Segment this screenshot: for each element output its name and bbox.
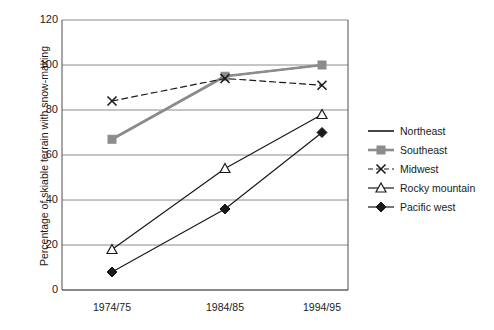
data-point-triangle (107, 245, 117, 254)
legend-item-midwest[interactable]: Midwest (366, 159, 494, 178)
x-axis-tick-label: 1984/85 (185, 301, 265, 313)
y-axis-tick-label: 40 (24, 194, 58, 205)
legend-item-label: Pacific west (396, 201, 455, 213)
y-axis-tick-labels: 020406080100120 (20, 0, 58, 330)
x-axis-tick-label: 1974/75 (72, 301, 152, 313)
legend-item-pacific-west[interactable]: Pacific west (366, 197, 494, 216)
legend-marker-icon (366, 180, 396, 196)
data-point-square (377, 146, 385, 154)
legend-item-label: Rocky mountain (396, 182, 475, 194)
y-axis-tick-label: 20 (24, 239, 58, 250)
data-point-square (318, 61, 326, 69)
y-axis-tick-label: 0 (24, 284, 58, 295)
legend-item-southeast[interactable]: Southeast (366, 140, 494, 159)
series-line (112, 65, 322, 139)
data-point-x (318, 81, 327, 90)
series-line (112, 115, 322, 250)
data-point-diamond (107, 267, 117, 277)
data-point-triangle (317, 110, 327, 119)
series-northeast (112, 65, 322, 139)
chart-legend: NortheastSoutheastMidwestRocky mountainP… (366, 121, 494, 216)
legend-item-label: Northeast (396, 125, 446, 137)
legend-marker-icon (366, 199, 396, 215)
chart-container: Percentage of skiable terrain with snow-… (0, 0, 494, 330)
y-axis-tick-label: 60 (24, 149, 58, 160)
legend-item-rocky-mountain[interactable]: Rocky mountain (366, 178, 494, 197)
series-line (112, 65, 322, 139)
y-axis-tick-label: 100 (24, 59, 58, 70)
data-point-square (108, 135, 116, 143)
legend-item-label: Southeast (396, 144, 447, 156)
series-pacific-west (107, 128, 327, 278)
legend-marker-icon (366, 142, 396, 158)
legend-item-northeast[interactable]: Northeast (366, 121, 494, 140)
series-midwest (108, 74, 327, 106)
legend-marker-icon (366, 161, 396, 177)
data-point-diamond (376, 202, 386, 212)
series-line (112, 133, 322, 273)
legend-marker-icon (366, 123, 396, 139)
x-axis-tick-label: 1994/95 (282, 301, 362, 313)
legend-item-label: Midwest (396, 163, 439, 175)
series-rocky-mountain (107, 110, 327, 254)
data-point-triangle (220, 164, 230, 173)
y-axis-tick-label: 80 (24, 104, 58, 115)
data-point-x (108, 97, 117, 106)
y-axis-tick-label: 120 (24, 14, 58, 25)
